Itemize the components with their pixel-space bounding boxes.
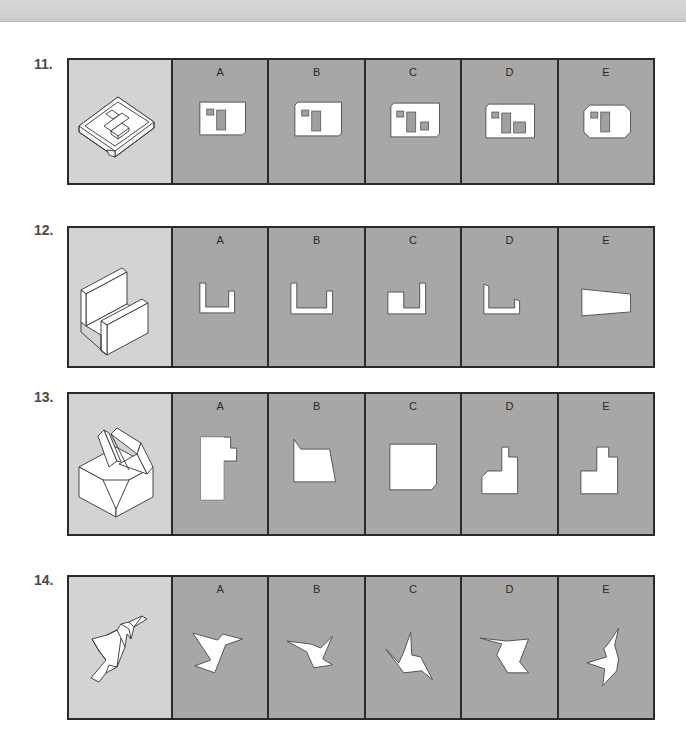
isometric-bird-icon — [69, 577, 171, 718]
question-stem-figure — [69, 394, 173, 534]
bird-silhouette-icon — [173, 577, 267, 718]
isometric-block-icon — [69, 394, 171, 534]
option-c[interactable]: C — [366, 60, 462, 183]
option-b[interactable]: B — [269, 577, 365, 718]
u-shape-icon — [269, 228, 363, 366]
stepped-shape-icon — [173, 394, 267, 534]
bird-silhouette-icon — [269, 577, 363, 718]
plate-figure-icon — [366, 60, 460, 183]
isometric-tray-icon — [69, 60, 171, 183]
u-shape-icon — [366, 228, 460, 366]
option-d[interactable]: D — [462, 60, 558, 183]
option-c[interactable]: C — [366, 577, 462, 718]
plate-figure-icon — [269, 60, 363, 183]
question-stem-figure — [69, 60, 173, 183]
option-b[interactable]: B — [269, 228, 365, 366]
option-e[interactable]: E — [559, 394, 653, 534]
option-c[interactable]: C — [366, 228, 462, 366]
chamfered-square-icon — [366, 394, 460, 534]
option-e[interactable]: E — [559, 60, 653, 183]
question-number: 13. — [34, 389, 53, 405]
question-frame: A B C D E — [67, 575, 655, 720]
u-shape-icon — [462, 228, 556, 366]
plate-figure-icon — [462, 60, 556, 183]
option-b[interactable]: B — [269, 60, 365, 183]
option-d[interactable]: D — [462, 228, 558, 366]
option-a[interactable]: A — [173, 228, 269, 366]
stepped-shape-icon — [462, 394, 556, 534]
option-e[interactable]: E — [559, 228, 653, 366]
plate-figure-icon — [173, 60, 267, 183]
option-b[interactable]: B — [269, 394, 365, 534]
question-number: 12. — [34, 222, 53, 238]
option-a[interactable]: A — [173, 577, 269, 718]
u-shape-icon — [173, 228, 267, 366]
question-frame: A B C D E — [67, 392, 655, 536]
bird-silhouette-icon — [559, 577, 653, 718]
plate-figure-icon — [559, 60, 653, 183]
question-frame: A B C D E — [67, 226, 655, 368]
question-frame: A B C D — [67, 58, 655, 185]
option-a[interactable]: A — [173, 394, 269, 534]
question-number: 11. — [34, 56, 53, 72]
top-gradient-band — [0, 0, 686, 22]
trapezoid-icon — [559, 228, 653, 366]
bird-silhouette-icon — [462, 577, 556, 718]
option-d[interactable]: D — [462, 577, 558, 718]
question-stem-figure — [69, 577, 173, 718]
option-d[interactable]: D — [462, 394, 558, 534]
question-stem-figure — [69, 228, 173, 366]
bird-silhouette-icon — [366, 577, 460, 718]
option-e[interactable]: E — [559, 577, 653, 718]
isometric-u-channel-icon — [69, 228, 171, 366]
question-number: 14. — [34, 572, 53, 588]
slanted-shape-icon — [269, 394, 363, 534]
option-c[interactable]: C — [366, 394, 462, 534]
option-a[interactable]: A — [173, 60, 269, 183]
stepped-shape-icon — [559, 394, 653, 534]
